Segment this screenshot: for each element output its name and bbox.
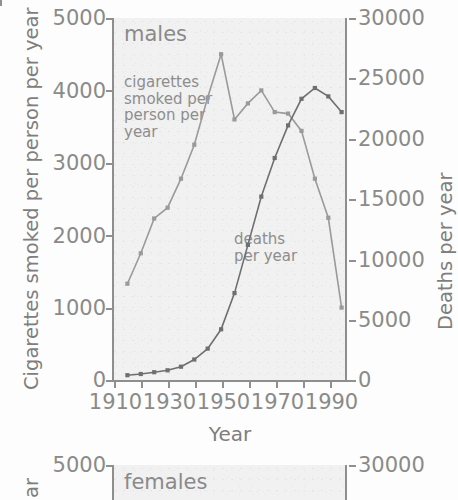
data-point-marker [219,52,223,56]
data-point-marker [219,327,223,331]
data-point-marker [326,94,330,98]
data-point-marker [326,216,330,220]
data-point-marker [152,370,156,374]
data-point-marker [139,251,143,255]
data-point-marker [259,88,263,92]
series-overlay-males [0,0,458,440]
left-axis-title-females: ar [20,478,43,498]
data-point-marker [246,101,250,105]
panel-title-females: females [124,470,207,494]
data-point-marker [340,306,344,310]
data-point-marker [206,96,210,100]
data-point-marker [125,282,129,286]
left-tick-mark [106,465,113,467]
data-point-marker [259,195,263,199]
left-tick-label: 5000 [22,455,106,476]
data-point-marker [152,216,156,220]
data-point-marker [286,112,290,116]
data-point-marker [179,365,183,369]
right-tick-mark [349,465,356,467]
series-deaths [125,86,343,377]
data-point-marker [166,206,170,210]
data-point-marker [273,110,277,114]
data-point-marker [232,117,236,121]
data-point-marker [166,368,170,372]
data-point-marker [273,156,277,160]
data-point-marker [179,177,183,181]
data-point-marker [206,347,210,351]
data-point-marker [139,372,143,376]
data-point-marker [299,129,303,133]
data-point-marker [313,177,317,181]
figure-root: Cigarettes smoked per person per year De… [0,0,458,500]
data-point-marker [286,123,290,127]
data-point-marker [246,243,250,247]
right-tick-label: 30000 [358,455,425,476]
data-point-marker [299,97,303,101]
data-point-marker [192,143,196,147]
data-point-marker [340,110,344,114]
series-line [127,88,341,375]
data-point-marker [232,291,236,295]
panel-males: Cigarettes smoked per person per year De… [0,0,458,440]
data-point-marker [313,86,317,90]
data-point-marker [125,373,129,377]
data-point-marker [192,357,196,361]
panel-females: ar 5000 30000 females [0,440,458,500]
